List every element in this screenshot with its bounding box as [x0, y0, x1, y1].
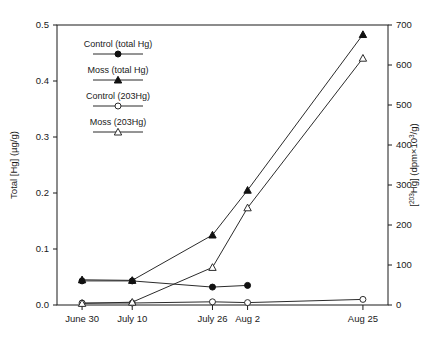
series-line: [82, 281, 248, 287]
y-tick-label-right: 600: [396, 59, 412, 70]
y-axis-label-right: [203Hg] (dpm×103/g): [408, 123, 419, 206]
legend-label: Control (203Hg): [86, 91, 150, 101]
x-tick-label: June 30: [65, 313, 99, 324]
y-tick-label-left: 0.5: [36, 19, 49, 30]
legend-label: Control (total Hg): [84, 39, 153, 49]
y-tick-label-left: 0.4: [36, 75, 49, 86]
y-tick-label-left: 0.1: [36, 243, 49, 254]
marker-open-circle: [209, 299, 215, 305]
marker-filled-circle: [245, 282, 251, 288]
y-axis-left: 0.00.10.20.30.40.5Total [Hg] (µg/g): [8, 19, 57, 310]
marker-open-circle: [245, 300, 251, 306]
legend-label: Moss (total Hg): [87, 65, 148, 75]
marker-open-circle: [115, 103, 121, 109]
y-tick-label-right: 500: [396, 99, 412, 110]
marker-open-triangle: [209, 264, 216, 271]
y-tick-label-left: 0.0: [36, 299, 49, 310]
legend-label: Moss (203Hg): [90, 117, 147, 127]
chart-figure: 0.00.10.20.30.40.5Total [Hg] (µg/g)01002…: [0, 0, 427, 344]
y-axis-label-left: Total [Hg] (µg/g): [8, 131, 19, 199]
x-tick-label: July 10: [117, 313, 147, 324]
y-tick-label-left: 0.3: [36, 131, 49, 142]
y-tick-label-right: 100: [396, 259, 412, 270]
chart-legend: Control (total Hg)Moss (total Hg)Control…: [84, 39, 153, 135]
marker-filled-circle: [209, 284, 215, 290]
marker-open-triangle: [359, 55, 366, 62]
y-tick-label-right: 0: [396, 299, 401, 310]
x-tick-label: Aug 2: [235, 313, 260, 324]
y-tick-label-right: 200: [396, 219, 412, 230]
marker-filled-triangle: [359, 31, 366, 38]
x-axis: June 30July 10July 26Aug 2Aug 25: [65, 305, 378, 324]
x-tick-label: July 26: [197, 313, 227, 324]
marker-filled-circle: [115, 51, 121, 57]
y-tick-label-right: 700: [396, 19, 412, 30]
chart-svg: 0.00.10.20.30.40.5Total [Hg] (µg/g)01002…: [0, 0, 427, 344]
y-axis-right: 0100200300400500600700[203Hg] (dpm×103/g…: [388, 19, 419, 310]
y-tick-label-left: 0.2: [36, 187, 49, 198]
x-tick-label: Aug 25: [348, 313, 378, 324]
marker-open-circle: [360, 296, 366, 302]
